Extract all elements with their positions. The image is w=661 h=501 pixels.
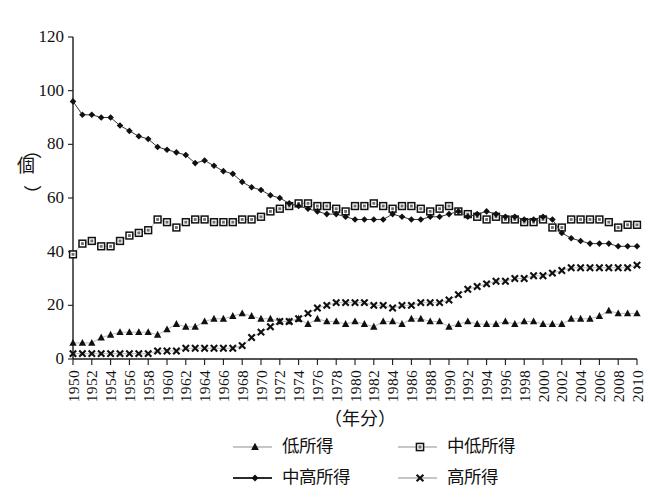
data-point-marker (568, 315, 575, 322)
data-point-marker (314, 305, 320, 311)
data-point-marker (258, 329, 264, 335)
data-point-marker-core (579, 218, 582, 221)
legend-item-label: 中低所得 (447, 436, 515, 456)
data-point-marker-core (354, 205, 357, 208)
data-point-marker (89, 112, 96, 119)
data-point-marker (258, 187, 265, 194)
data-point-marker (252, 475, 259, 482)
data-point-marker-core (128, 234, 131, 237)
data-point-marker (606, 240, 613, 247)
data-point-marker-core (250, 218, 253, 221)
x-tick-label: 2004 (572, 370, 589, 402)
data-point-marker-core (485, 218, 488, 221)
y-axis-title: （個） (17, 141, 42, 203)
data-point-marker (126, 128, 133, 135)
legend-item-triangle[interactable]: 低所得 (233, 436, 333, 456)
data-point-marker (79, 339, 86, 346)
data-point-marker (549, 270, 555, 276)
x-tick-label: 1954 (102, 370, 119, 402)
data-point-marker-core (307, 202, 310, 205)
data-point-marker (69, 339, 76, 346)
data-point-marker (267, 192, 274, 199)
data-point-marker (408, 315, 415, 322)
data-point-marker (418, 216, 425, 223)
data-point-marker (483, 208, 490, 215)
data-point-marker (220, 168, 227, 175)
data-point-marker (399, 213, 406, 220)
data-point-marker-core (100, 245, 103, 248)
y-tick-label: 0 (56, 349, 65, 368)
data-point-marker (502, 317, 509, 324)
data-point-marker (135, 328, 142, 335)
data-point-marker-core (109, 245, 112, 248)
data-point-marker (314, 315, 321, 322)
data-point-marker (436, 213, 443, 220)
chart-legend: 低所得中低所得中高所得高所得 (233, 436, 515, 487)
x-tick-label: 1952 (83, 370, 100, 402)
data-point-marker-core (570, 218, 573, 221)
series-polyline (73, 265, 637, 354)
data-point-marker-core (213, 221, 216, 224)
y-axis-title-char: 個 (17, 156, 35, 176)
data-point-marker (145, 328, 152, 335)
data-point-marker (164, 146, 171, 153)
data-point-marker (305, 310, 311, 316)
data-point-marker (267, 315, 274, 322)
data-point-marker (577, 315, 584, 322)
data-point-marker-core (166, 221, 169, 224)
data-point-marker (192, 323, 199, 330)
x-tick-label: 1992 (459, 370, 476, 402)
data-point-marker (596, 240, 603, 247)
legend-item-square[interactable]: 中低所得 (398, 436, 515, 456)
data-point-marker-core (607, 221, 610, 224)
data-point-marker-core (391, 207, 394, 210)
y-axis-title-char: ） (22, 185, 42, 203)
data-point-marker-core (184, 221, 187, 224)
data-point-marker (577, 238, 584, 245)
data-point-marker (464, 317, 471, 324)
data-point-marker (324, 211, 331, 218)
x-tick-label: 1970 (253, 370, 270, 402)
data-point-marker (98, 114, 105, 121)
data-point-marker-core (81, 242, 84, 245)
legend-item-diamond[interactable]: 中高所得 (233, 467, 350, 487)
data-point-marker-core (335, 207, 338, 210)
x-tick-label: 1960 (159, 370, 176, 402)
data-point-marker-core (589, 218, 592, 221)
data-point-marker-core (344, 210, 347, 213)
legend-item-label: 低所得 (282, 436, 333, 456)
x-tick-label: 1958 (140, 370, 157, 402)
legend-item-label: 中高所得 (282, 467, 350, 487)
legend-item-label: 高所得 (447, 467, 498, 487)
data-point-marker (408, 216, 415, 223)
data-point-marker (587, 240, 594, 247)
data-point-marker-core (147, 229, 150, 232)
legend-item-x[interactable]: 高所得 (398, 467, 498, 487)
data-point-marker-core (617, 226, 620, 229)
data-point-marker-core (626, 223, 629, 226)
data-point-marker (361, 216, 368, 223)
x-tick-label: 1950 (65, 370, 82, 402)
data-point-marker (596, 312, 603, 319)
data-point-marker-core (137, 231, 140, 234)
y-tick-label: 120 (39, 27, 65, 46)
x-tick-label: 2010 (629, 370, 646, 402)
data-point-marker-core (382, 205, 385, 208)
x-tick-label: 1988 (422, 370, 439, 402)
data-point-marker (465, 286, 471, 292)
data-point-marker-core (203, 218, 206, 221)
x-tick-label: 2000 (535, 370, 552, 402)
data-point-marker (136, 133, 143, 140)
data-point-marker (634, 262, 640, 268)
data-point-marker (559, 267, 565, 273)
data-point-marker (483, 281, 489, 287)
x-tick-label: 1976 (309, 370, 326, 402)
data-point-marker-core (90, 240, 93, 243)
series-4-x (70, 262, 640, 357)
axes-group (73, 37, 637, 359)
data-point-marker (568, 235, 575, 242)
data-point-marker (304, 320, 311, 327)
x-tick-label: 1994 (478, 370, 495, 402)
data-point-marker (530, 317, 537, 324)
x-tick-label: 1986 (403, 370, 420, 402)
